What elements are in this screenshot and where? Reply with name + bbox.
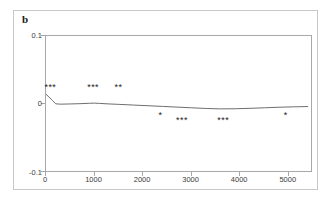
significance-mark: *** [87,83,99,92]
x-axis-tick-label: 4000 [224,176,254,184]
x-tick-mark [191,172,192,176]
x-tick-mark [288,172,289,176]
y-axis-tick-label-top: 0.1 [16,32,42,40]
significance-mark: *** [45,83,57,92]
significance-mark: *** [217,116,229,125]
x-tick-mark [94,172,95,176]
x-tick-mark [45,172,46,176]
x-tick-mark [142,172,143,176]
data-series-line [46,94,308,109]
significance-mark: * [284,111,288,120]
significance-mark: ** [115,83,123,92]
plot-area [45,35,312,172]
significance-mark: * [158,111,162,120]
x-axis-tick-label: 0 [30,176,60,184]
figure-root: b 0.1 0 -0.1 0 1000 2000 3000 4000 5000 … [0,0,333,198]
x-axis-tick-label: 1000 [79,176,109,184]
y-axis-tick-label-mid: 0 [16,100,42,108]
significance-mark: *** [176,116,188,125]
x-tick-mark [239,172,240,176]
data-line-svg [46,36,313,173]
x-axis-tick-label: 2000 [127,176,157,184]
panel-label: b [22,14,28,25]
x-axis-tick-label: 3000 [176,176,206,184]
x-axis-tick-label: 5000 [273,176,303,184]
